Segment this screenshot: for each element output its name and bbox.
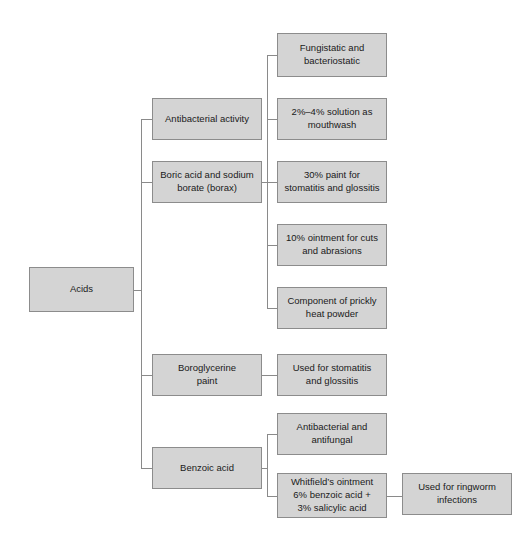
node-antibacterial-antifungal: Antibacterial and antifungal bbox=[277, 413, 387, 455]
node-whitfields-ointment: Whitfield’s ointment 6% benzoic acid + 3… bbox=[277, 473, 387, 518]
node-label-ointment-cuts-abrasions: 10% ointment for cuts and abrasions bbox=[282, 232, 382, 258]
node-label-prickly-heat-powder: Component of prickly heat powder bbox=[282, 295, 382, 321]
node-ointment-cuts-abrasions: 10% ointment for cuts and abrasions bbox=[277, 224, 387, 266]
node-label-benzoic-acid: Benzoic acid bbox=[157, 462, 257, 475]
node-fungistatic-bacteriostatic: Fungistatic and bacteriostatic bbox=[277, 33, 387, 77]
node-label-solution-mouthwash: 2%–4% solution as mouthwash bbox=[282, 106, 382, 132]
node-ringworm-infections: Used for ringworm infections bbox=[402, 473, 512, 515]
node-label-ringworm-infections: Used for ringworm infections bbox=[407, 481, 507, 507]
node-antibacterial-activity: Antibacterial activity bbox=[152, 98, 262, 140]
node-used-stomatitis-glossitis: Used for stomatitis and glossitis bbox=[277, 354, 387, 396]
connector-acids-trunk bbox=[141, 119, 142, 469]
node-benzoic-acid: Benzoic acid bbox=[152, 447, 262, 489]
connector-whitfields-ringworm-link bbox=[387, 496, 403, 497]
node-label-used-stomatitis-glossitis: Used for stomatitis and glossitis bbox=[282, 362, 382, 388]
node-label-fungistatic-bacteriostatic: Fungistatic and bacteriostatic bbox=[282, 42, 382, 68]
node-label-antibacterial-antifungal: Antibacterial and antifungal bbox=[282, 421, 382, 447]
node-label-boric-acid-sodium-borate: Boric acid and sodium borate (borax) bbox=[157, 169, 257, 195]
node-boroglycerine-paint: Boroglycerine paint bbox=[152, 354, 262, 396]
node-label-boroglycerine-paint: Boroglycerine paint bbox=[157, 362, 257, 388]
node-label-acids: Acids bbox=[34, 283, 129, 296]
flowchart-canvas: AcidsAntibacterial activityBoric acid an… bbox=[0, 0, 532, 544]
connector-boroglycerine-link bbox=[262, 375, 278, 376]
connector-benzoic-trunk bbox=[267, 434, 268, 496]
node-solution-mouthwash: 2%–4% solution as mouthwash bbox=[277, 98, 387, 140]
node-label-whitfields-ointment: Whitfield’s ointment 6% benzoic acid + 3… bbox=[282, 476, 382, 514]
node-label-paint-stomatitis-glossitis: 30% paint for stomatitis and glossitis bbox=[282, 169, 382, 195]
node-label-antibacterial-activity: Antibacterial activity bbox=[157, 113, 257, 126]
node-prickly-heat-powder: Component of prickly heat powder bbox=[277, 287, 387, 329]
node-paint-stomatitis-glossitis: 30% paint for stomatitis and glossitis bbox=[277, 161, 387, 203]
node-acids: Acids bbox=[29, 267, 134, 312]
node-boric-acid-sodium-borate: Boric acid and sodium borate (borax) bbox=[152, 161, 262, 203]
